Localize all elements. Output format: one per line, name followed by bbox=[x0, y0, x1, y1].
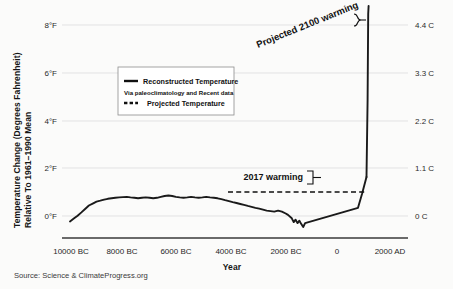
legend-sublabel-paleoclimatology: Via paleoclimatology and Recent data bbox=[124, 89, 234, 96]
chart-legend: Reconstructed Temperature Via paleoclima… bbox=[118, 67, 238, 115]
annotation-2017-label: 2017 warming bbox=[243, 172, 303, 182]
ytick-label-right-11c: 1.1 C bbox=[415, 164, 434, 173]
y-axis-title-line1: Temperature Change (Degrees Fahrenheit) bbox=[12, 52, 22, 228]
xtick-label-2000ad: 2000 AD bbox=[375, 247, 406, 256]
chart-svg: 8°F 6°F 4°F 2°F 0°F 4.4 C 3.3 C 2.2 C 1.… bbox=[0, 0, 453, 289]
ytick-label-right-33c: 3.3 C bbox=[415, 69, 434, 78]
legend-label-projected: Projected Temperature bbox=[147, 99, 225, 108]
climate-temperature-chart: 8°F 6°F 4°F 2°F 0°F 4.4 C 3.3 C 2.2 C 1.… bbox=[0, 0, 453, 289]
xtick-label-6000bc: 6000 BC bbox=[160, 247, 191, 256]
chart-background bbox=[0, 0, 453, 289]
xtick-label-0: 0 bbox=[335, 247, 340, 256]
x-axis-title: Year bbox=[223, 262, 242, 272]
xtick-label-2000bc: 2000 BC bbox=[270, 247, 301, 256]
ytick-label-right-22c: 2.2 C bbox=[415, 117, 434, 126]
legend-label-reconstructed: Reconstructed Temperature bbox=[143, 77, 238, 86]
xtick-label-10000bc: 10000 BC bbox=[53, 247, 89, 256]
ytick-label-0f: 0°F bbox=[44, 212, 57, 221]
ytick-label-8f: 8°F bbox=[44, 21, 57, 30]
ytick-label-right-0c: 0 C bbox=[415, 212, 428, 221]
source-attribution: Source: Science & ClimateProgress.org bbox=[14, 271, 148, 280]
xtick-label-8000bc: 8000 BC bbox=[106, 247, 137, 256]
xtick-label-4000bc: 4000 BC bbox=[215, 247, 246, 256]
ytick-label-4f: 4°F bbox=[44, 117, 57, 126]
ytick-label-6f: 6°F bbox=[44, 69, 57, 78]
y-axis-title-line2: Relative To 1961–1990 Mean bbox=[23, 112, 33, 228]
ytick-label-2f: 2°F bbox=[44, 164, 57, 173]
ytick-label-right-44c: 4.4 C bbox=[415, 21, 434, 30]
